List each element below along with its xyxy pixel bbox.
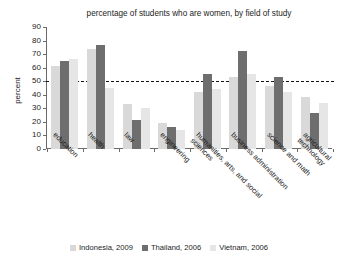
y-tick-mark — [43, 54, 46, 55]
y-tick-label: 10 — [16, 130, 46, 140]
y-tick-mark — [43, 68, 46, 69]
chart-legend: Indonesia, 2009Thailand, 2006Vietnam, 20… — [0, 243, 338, 252]
chart-title: percentage of students who are women, by… — [44, 9, 334, 19]
legend-label: Indonesia, 2009 — [79, 243, 133, 252]
y-tick-mark — [43, 41, 46, 42]
legend-label: Vietnam, 2006 — [219, 243, 268, 252]
y-tick-label: 90 — [16, 22, 46, 32]
y-tick-label: 0 — [16, 144, 46, 154]
legend-item[interactable]: Vietnam, 2006 — [210, 243, 268, 252]
y-tick-label: 80 — [16, 36, 46, 46]
y-tick-mark — [43, 108, 46, 109]
legend-item[interactable]: Thailand, 2006 — [142, 243, 201, 252]
y-tick-label: 30 — [16, 103, 46, 113]
x-tick-label: health — [87, 131, 107, 151]
y-tick-label: 40 — [16, 90, 46, 100]
x-tick-label: law — [122, 131, 136, 145]
legend-label: Thailand, 2006 — [151, 243, 201, 252]
chart-container: percentage of students who are women, by… — [0, 0, 338, 264]
y-tick-label: 70 — [16, 49, 46, 59]
x-tick-label: engineering — [158, 131, 191, 164]
y-tick-label: 50 — [16, 76, 46, 86]
x-tick-label: humanities, arts, and social sciences — [188, 131, 263, 206]
y-tick-mark — [43, 122, 46, 123]
y-tick-label: 20 — [16, 117, 46, 127]
x-axis-labels: educationhealthlawengineeringhumanities,… — [46, 131, 334, 235]
legend-swatch — [70, 245, 76, 251]
y-tick-label: 60 — [16, 63, 46, 73]
y-tick-mark — [43, 27, 46, 28]
y-tick-mark — [43, 95, 46, 96]
legend-swatch — [142, 245, 148, 251]
x-tick-label: education — [51, 131, 80, 160]
legend-item[interactable]: Indonesia, 2009 — [70, 243, 133, 252]
legend-swatch — [210, 245, 216, 251]
